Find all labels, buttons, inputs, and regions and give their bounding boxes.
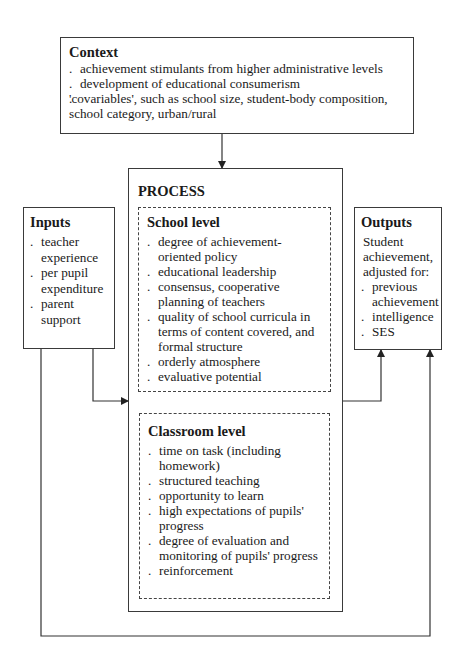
school-level-title: School level bbox=[147, 214, 324, 231]
outputs-intro: Student achievement, adjusted for: bbox=[361, 234, 438, 279]
school-level-item: educational leadership bbox=[147, 264, 324, 279]
outputs-item: intelligence bbox=[361, 309, 438, 324]
outputs-item: SES bbox=[361, 324, 438, 339]
process-title: PROCESS bbox=[138, 183, 205, 200]
inputs-item: per pupil expenditure bbox=[30, 265, 109, 296]
classroom-level-item: high expectations of pupils' progress bbox=[148, 503, 323, 533]
inputs-item: teacher experience bbox=[30, 234, 109, 265]
school-level-box: School level degree of achievement-orien… bbox=[138, 207, 331, 392]
classroom-level-title: Classroom level bbox=[148, 423, 323, 440]
classroom-level-item: degree of evaluation and monitoring of p… bbox=[148, 533, 323, 563]
context-item: 'covariables', such as school size, stud… bbox=[69, 91, 405, 121]
inputs-box: Inputs teacher experience per pupil expe… bbox=[23, 207, 115, 349]
outputs-item: previous achievement bbox=[361, 279, 438, 309]
school-level-item: quality of school curricula in terms of … bbox=[147, 309, 324, 354]
outputs-list: previous achievement intelligence SES bbox=[361, 279, 438, 339]
classroom-level-list: time on task (including homework) struct… bbox=[148, 443, 323, 578]
classroom-level-item: opportunity to learn bbox=[148, 488, 323, 503]
school-level-list: degree of achievement-oriented policy ed… bbox=[147, 234, 324, 384]
classroom-level-item: reinforcement bbox=[148, 563, 323, 578]
classroom-level-item: structured teaching bbox=[148, 473, 323, 488]
context-item: development of educational consumerism bbox=[69, 76, 405, 91]
context-list: achievement stimulants from higher admin… bbox=[69, 61, 405, 121]
school-level-item: orderly atmosphere bbox=[147, 354, 324, 369]
context-title: Context bbox=[69, 44, 405, 61]
school-level-item: evaluative potential bbox=[147, 369, 324, 384]
classroom-level-item: time on task (including homework) bbox=[148, 443, 323, 473]
school-level-item: degree of achievement-oriented policy bbox=[147, 234, 324, 264]
process-to-outputs-arrow bbox=[343, 350, 381, 401]
classroom-level-box: Classroom level time on task (including … bbox=[139, 413, 330, 599]
inputs-title: Inputs bbox=[30, 214, 109, 231]
inputs-item: parent support bbox=[30, 296, 109, 327]
outputs-box: Outputs Student achievement, adjusted fo… bbox=[354, 207, 442, 350]
context-item: achievement stimulants from higher admin… bbox=[69, 61, 405, 76]
outputs-title: Outputs bbox=[361, 214, 438, 231]
school-level-item: consensus, cooperative planning of teach… bbox=[147, 279, 324, 309]
context-box: Context achievement stimulants from high… bbox=[60, 37, 414, 134]
inputs-list: teacher experience per pupil expenditure… bbox=[30, 234, 109, 327]
inputs-to-process-arrow bbox=[93, 349, 128, 401]
